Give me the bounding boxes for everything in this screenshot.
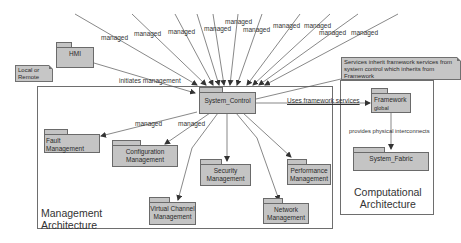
package-security-management[interactable]: Security Management [200, 159, 251, 186]
management-architecture-title: Management Architecture [41, 207, 102, 231]
edge-label-initiates-management: initiates management [119, 77, 181, 85]
edge-label-managed: managed [134, 30, 161, 38]
note-line: Services inherit framework services from [344, 59, 458, 66]
package-label: Virtual Channel [150, 205, 195, 213]
local-or-remote-note: Local or Remote [15, 65, 53, 82]
computational-architecture-title: Computational Architecture [354, 186, 422, 210]
package-label: Performance [288, 167, 330, 175]
package-sublabel: global [374, 104, 410, 112]
package-framework[interactable]: Framework global [371, 88, 411, 113]
package-system-control[interactable]: System_Control [199, 87, 256, 114]
package-label: Management [150, 213, 195, 221]
edge-label-provides-physical-interconnects: provides physical interconnects [349, 127, 430, 135]
package-label: HMI [69, 50, 81, 57]
package-label: Fault Management [46, 137, 84, 152]
package-system-fabric[interactable]: System_Fabric [353, 147, 429, 171]
edge-label-managed: managed [178, 120, 205, 128]
package-label: Framework [374, 96, 410, 104]
edge-label-managed: managed [319, 29, 346, 37]
package-label: Management [201, 175, 250, 183]
package-virtual-channel-management[interactable]: Virtual Channel Management [149, 197, 196, 225]
package-label: System_Fabric [369, 155, 412, 162]
edge-label-managed: managed [273, 22, 300, 30]
package-network-management[interactable]: Network Management [263, 198, 309, 224]
edge-label-managed: managed [204, 25, 231, 33]
edge-label-managed: managed [351, 29, 378, 37]
package-hmi[interactable]: HMI [56, 42, 94, 68]
package-fault-management[interactable]: Fault Management [44, 129, 100, 153]
package-label: Management [264, 214, 308, 222]
note-line: system control which inherits from [344, 66, 458, 73]
package-label: Management [288, 175, 330, 183]
package-label: Network [264, 206, 308, 214]
edge-label-managed: managed [243, 26, 270, 34]
edge-label-managed: managed [101, 34, 128, 42]
note-line: Remote [18, 74, 50, 81]
package-configuration-management[interactable]: Configuration Management [112, 140, 178, 167]
package-label: Configuration [113, 148, 177, 156]
package-label: Management [113, 156, 177, 164]
edge-label-managed: managed [135, 120, 162, 128]
edge-label-uses-framework-services: Uses framework services [287, 97, 360, 105]
framework-services-note: Services inherit framework services from… [341, 57, 461, 80]
package-label: System_Control [204, 97, 250, 104]
note-line: Local or [18, 67, 50, 74]
package-label: Security [201, 167, 250, 175]
package-performance-management[interactable]: Performance Management [287, 159, 331, 185]
edge-label-managed: managed [225, 18, 252, 26]
edge-label-managed: managed [168, 28, 195, 36]
note-line: Framework [344, 73, 458, 80]
